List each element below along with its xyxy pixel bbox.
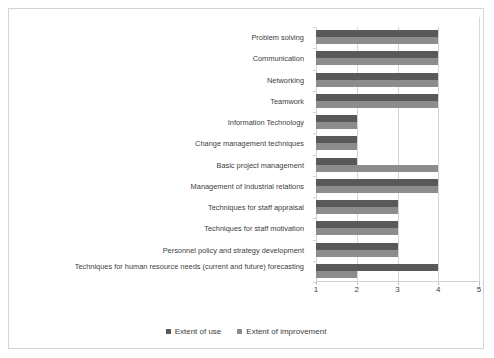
bar-extent-of-improvement	[316, 271, 357, 278]
legend-label: Extent of improvement	[246, 327, 326, 336]
bar-extent-of-improvement	[316, 207, 398, 214]
legend-swatch-icon	[237, 329, 242, 334]
y-axis-tick	[313, 261, 316, 262]
bar-extent-of-use	[316, 73, 438, 80]
bar-extent-of-use	[316, 30, 438, 37]
y-axis-tick	[313, 155, 316, 156]
bar-extent-of-improvement	[316, 37, 438, 44]
bar-extent-of-use	[316, 179, 438, 186]
bar-extent-of-use	[316, 243, 398, 250]
category-label: Techniques for human resource needs (cur…	[9, 262, 309, 271]
y-axis-tick	[313, 218, 316, 219]
y-axis-tick	[313, 197, 316, 198]
x-axis-tick-label: 1	[306, 285, 326, 294]
category-label: Personnel policy and strategy developmen…	[9, 246, 309, 255]
category-label: Teamwork	[9, 97, 309, 106]
legend-item[interactable]: Extent of improvement	[237, 327, 326, 336]
bar-extent-of-improvement	[316, 228, 398, 235]
y-axis-tick	[313, 48, 316, 49]
bar-extent-of-use	[316, 94, 438, 101]
gridline	[438, 27, 439, 282]
bar-extent-of-improvement	[316, 250, 398, 257]
category-label: Basic project management	[9, 161, 309, 170]
bar-extent-of-improvement	[316, 122, 357, 129]
y-axis-tick	[313, 70, 316, 71]
bar-extent-of-use	[316, 136, 357, 143]
bar-extent-of-improvement	[316, 101, 438, 108]
bar-extent-of-improvement	[316, 143, 357, 150]
category-label: Communication	[9, 54, 309, 63]
y-axis-tick	[313, 176, 316, 177]
x-axis-tick-label: 5	[469, 285, 489, 294]
plot-area	[316, 27, 479, 282]
bar-extent-of-improvement	[316, 186, 438, 193]
x-axis-tick-label: 2	[347, 285, 367, 294]
gridline	[479, 17, 480, 289]
chart-plot-wrapper: Problem solvingCommunicationNetworkingTe…	[9, 9, 483, 348]
y-axis-tick	[313, 240, 316, 241]
category-label: Techniques for staff appraisal	[9, 203, 309, 212]
bar-extent-of-use	[316, 158, 357, 165]
y-axis-tick	[313, 27, 316, 28]
x-axis-tick-label: 4	[428, 285, 448, 294]
category-axis-labels: Problem solvingCommunicationNetworkingTe…	[9, 27, 309, 282]
category-label: Information Technology	[9, 118, 309, 127]
category-label: Techniques for staff motivation	[9, 224, 309, 233]
legend-swatch-icon	[166, 329, 171, 334]
category-label: Management of Industrial relations	[9, 182, 309, 191]
chart-container: Problem solvingCommunicationNetworkingTe…	[8, 8, 484, 349]
y-axis-tick	[313, 91, 316, 92]
category-label: Change management techniques	[9, 139, 309, 148]
category-label: Networking	[9, 76, 309, 85]
category-label: Problem solving	[9, 33, 309, 42]
legend-label: Extent of use	[175, 327, 222, 336]
bar-extent-of-use	[316, 51, 438, 58]
y-axis-tick	[313, 112, 316, 113]
bar-extent-of-use	[316, 264, 438, 271]
y-axis-tick	[313, 133, 316, 134]
x-axis-labels: 12345	[316, 285, 494, 299]
bar-extent-of-improvement	[316, 80, 438, 87]
bar-extent-of-use	[316, 115, 357, 122]
x-axis-tick-label: 3	[388, 285, 408, 294]
bar-extent-of-use	[316, 221, 398, 228]
bar-extent-of-improvement	[316, 58, 438, 65]
legend-item[interactable]: Extent of use	[166, 327, 222, 336]
bar-extent-of-improvement	[316, 165, 438, 172]
bar-extent-of-use	[316, 200, 398, 207]
chart-legend: Extent of useExtent of improvement	[9, 327, 483, 336]
